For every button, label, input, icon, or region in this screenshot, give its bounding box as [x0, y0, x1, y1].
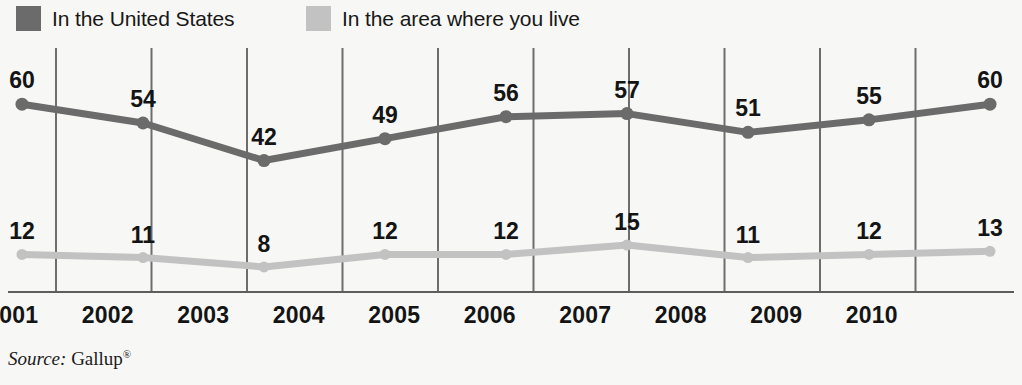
- data-point-label: 60: [9, 67, 35, 93]
- data-point: [622, 240, 633, 251]
- data-point-label: 12: [493, 218, 519, 244]
- data-point-label: 60: [977, 67, 1003, 93]
- data-point-label: 56: [493, 80, 519, 106]
- data-point: [864, 249, 875, 260]
- data-point: [380, 249, 391, 260]
- data-point-label: 49: [372, 102, 398, 128]
- data-point: [621, 107, 634, 120]
- data-point-label: 42: [251, 124, 277, 150]
- x-axis-tick-2003: 2003: [177, 302, 229, 329]
- data-point: [501, 249, 512, 260]
- data-point-label: 57: [614, 77, 640, 103]
- x-axis-tick-2010: 2010: [846, 302, 898, 329]
- data-point-label: 55: [856, 83, 882, 109]
- data-point: [985, 246, 996, 257]
- data-point-label: 15: [614, 209, 640, 235]
- source-note: Source: Gallup®: [8, 348, 131, 370]
- chart-figure: In the United States In the area where y…: [0, 0, 1022, 385]
- data-point-label: 8: [258, 231, 271, 257]
- data-point: [743, 252, 754, 263]
- x-axis-tick-2001: 2001: [0, 302, 38, 329]
- data-point-label: 54: [130, 86, 156, 112]
- data-point-label: 12: [9, 218, 35, 244]
- data-point: [742, 126, 755, 139]
- source-label: Source:: [8, 348, 66, 369]
- x-axis-tick-2006: 2006: [464, 302, 516, 329]
- chart-plot-area: 12118121215111213 605442495657515560: [0, 0, 1022, 300]
- x-axis-tick-2009: 2009: [750, 302, 802, 329]
- x-axis-tick-2005: 2005: [368, 302, 420, 329]
- data-point: [379, 132, 392, 145]
- data-point-label: 51: [735, 95, 761, 121]
- x-axis-tick-2004: 2004: [273, 302, 325, 329]
- data-point: [258, 154, 271, 167]
- x-axis-tick-2008: 2008: [655, 302, 707, 329]
- series-area-where-you-live: [17, 240, 996, 273]
- registered-trademark-icon: ®: [123, 348, 131, 360]
- data-point: [984, 98, 997, 111]
- x-axis-tick-2007: 2007: [559, 302, 611, 329]
- data-point-label: 13: [977, 215, 1003, 241]
- data-point: [259, 261, 270, 272]
- series-labels-united-states: 605442495657515560: [9, 67, 1003, 149]
- series-united-states: [16, 98, 997, 167]
- data-point: [16, 98, 29, 111]
- data-point-label: 11: [131, 222, 156, 248]
- data-point: [500, 110, 513, 123]
- data-point-label: 12: [856, 218, 882, 244]
- chart-svg: 12118121215111213 605442495657515560: [0, 0, 1022, 300]
- source-value: Gallup: [71, 348, 123, 369]
- data-point: [137, 116, 150, 129]
- data-point-label: 12: [372, 218, 398, 244]
- data-point: [17, 249, 28, 260]
- data-point-label: 11: [736, 222, 761, 248]
- data-point: [863, 113, 876, 126]
- chart-x-axis: 2001200220032004200520062007200820092010: [0, 300, 1022, 340]
- x-axis-tick-2002: 2002: [82, 302, 134, 329]
- data-point: [138, 252, 149, 263]
